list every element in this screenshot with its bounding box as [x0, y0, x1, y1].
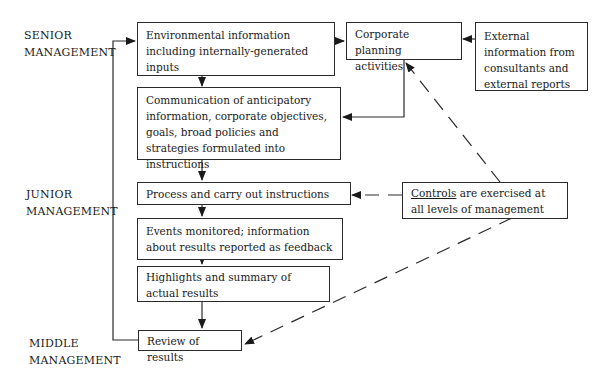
level-label-junior: JUNIOR MANAGEMENT	[26, 186, 118, 220]
box-text: Communication of anticipatory informatio…	[146, 94, 327, 170]
level-label-line: MANAGEMENT	[29, 352, 121, 369]
box-text: Corporate planning activities	[355, 28, 409, 72]
controls-keyword: Controls	[411, 187, 456, 199]
level-label-line: SENIOR	[24, 27, 116, 44]
level-label-line: MIDDLE	[29, 335, 121, 352]
box-process-instructions: Process and carry out instructions	[137, 182, 351, 205]
level-label-middle: MIDDLE MANAGEMENT	[29, 335, 121, 369]
box-environmental-information: Environmental information including inte…	[137, 22, 335, 76]
box-communication: Communication of anticipatory informatio…	[137, 87, 341, 160]
level-label-senior: SENIOR MANAGEMENT	[24, 27, 116, 61]
level-label-line: MANAGEMENT	[24, 44, 116, 61]
box-text: Highlights and summary of actual results	[146, 271, 291, 299]
box-corporate-planning: Corporate planning activities	[346, 22, 462, 60]
box-events-monitored: Events monitored; information about resu…	[137, 218, 343, 260]
level-label-line: JUNIOR	[26, 186, 118, 203]
box-review-results: Review of results	[138, 330, 242, 351]
box-text: Process and carry out instructions	[146, 188, 329, 200]
box-text: Events monitored; information about resu…	[146, 225, 332, 253]
level-label-line: MANAGEMENT	[26, 203, 118, 220]
box-external-information: External information from consultants an…	[475, 22, 588, 91]
box-controls: Controls are exercised at all levels of …	[402, 182, 568, 219]
box-highlights-summary: Highlights and summary of actual results	[137, 266, 330, 302]
box-text: External information from consultants an…	[484, 30, 575, 90]
box-text: Environmental information including inte…	[146, 29, 308, 73]
